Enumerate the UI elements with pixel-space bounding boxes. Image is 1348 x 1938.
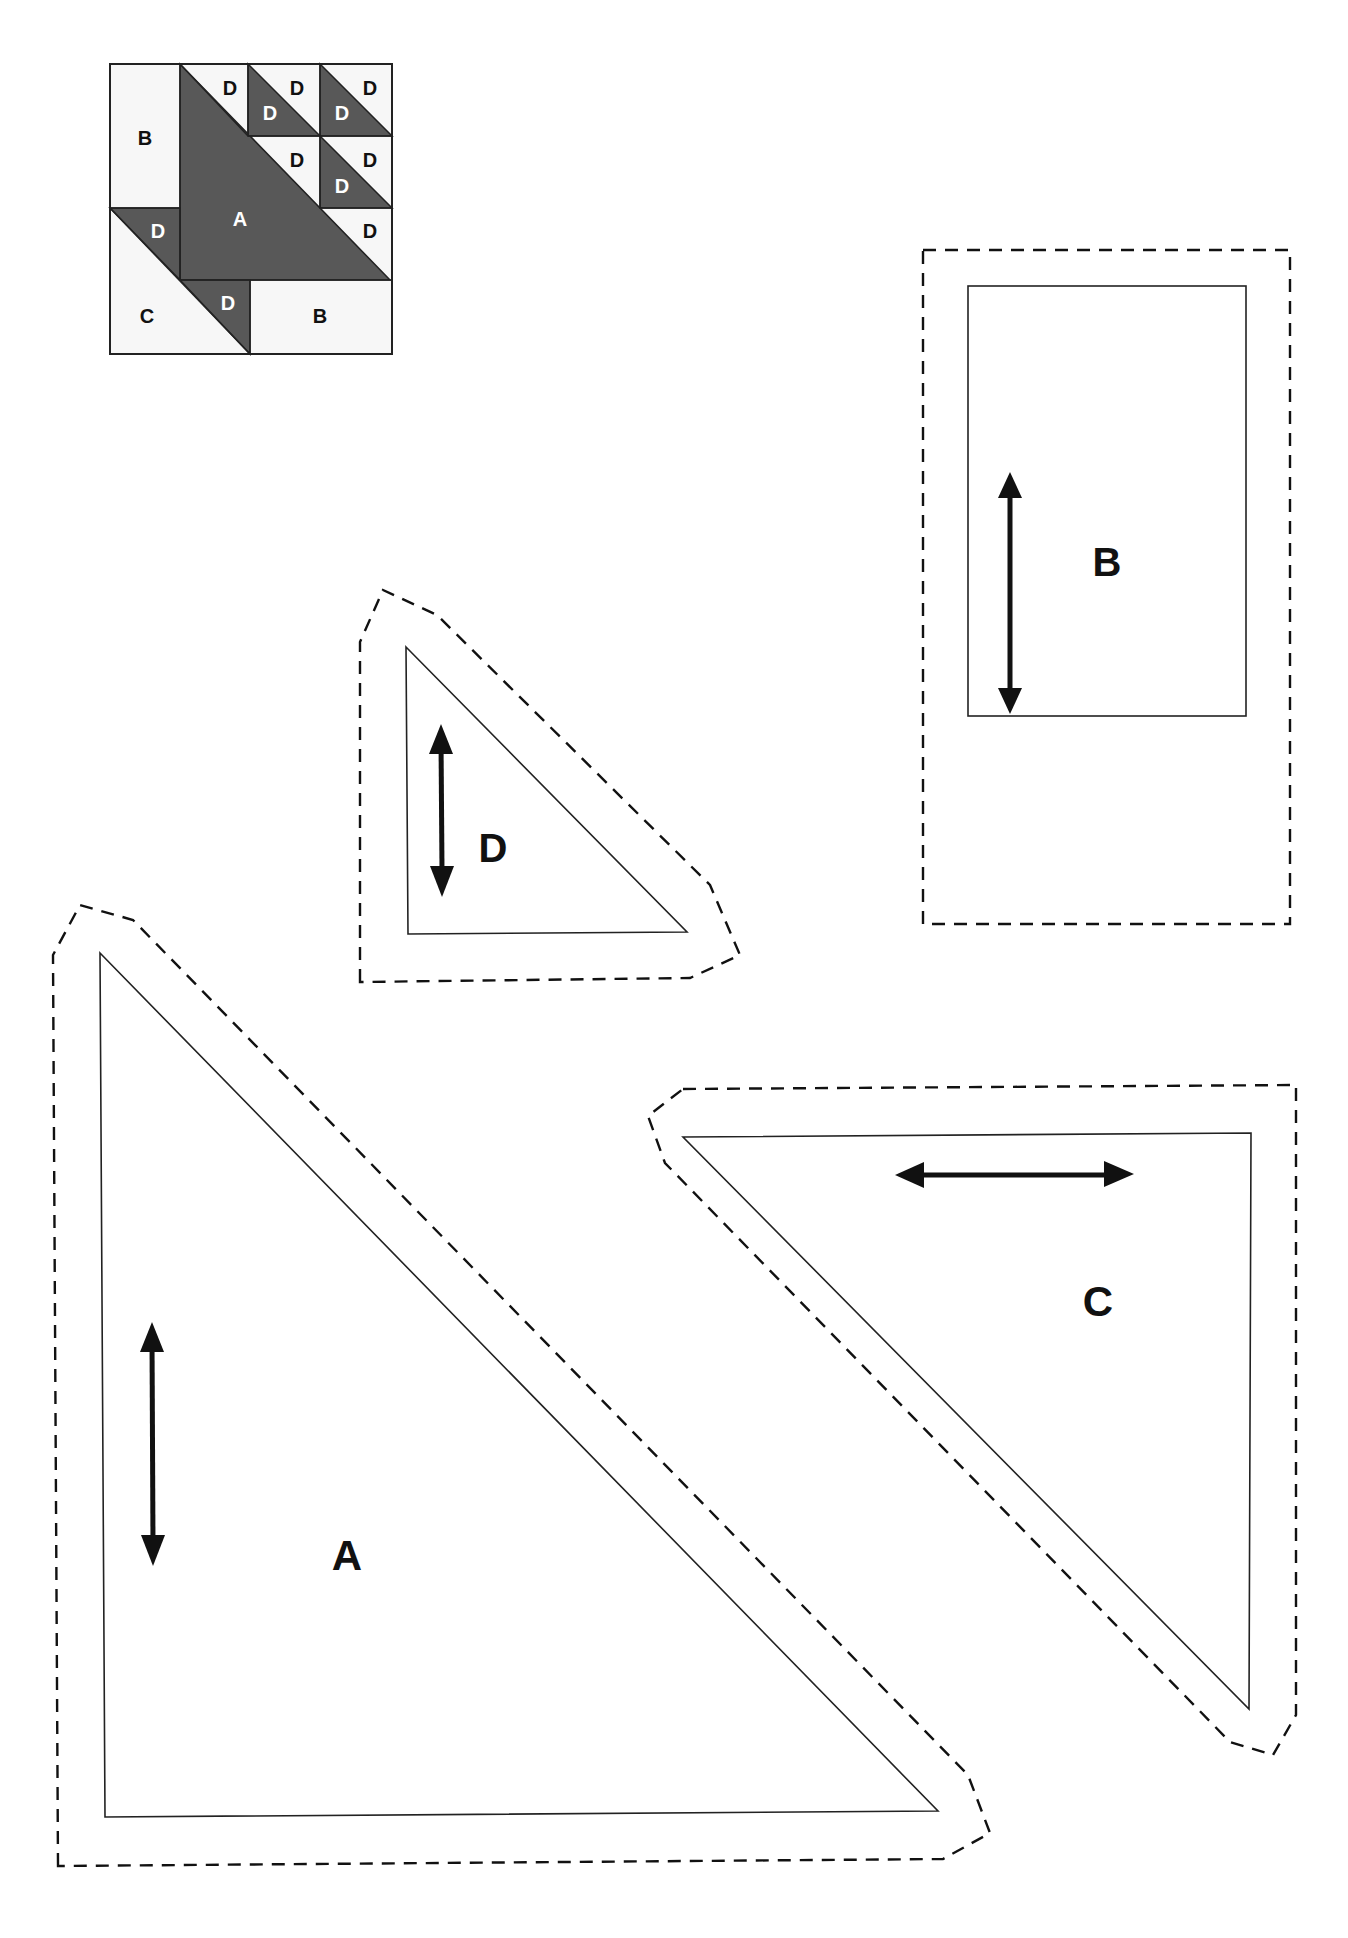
template-label-a: A	[332, 1532, 362, 1579]
block-label-c: C	[140, 305, 154, 327]
block-diagram: B A C B D D D D D D D D D D D	[110, 64, 392, 354]
template-c: C	[648, 1085, 1296, 1755]
block-label-d: D	[263, 102, 277, 124]
template-d: D	[360, 590, 740, 982]
block-label-d: D	[363, 220, 377, 242]
block-label-d: D	[363, 77, 377, 99]
block-label-d: D	[223, 77, 237, 99]
template-label-b: B	[1093, 540, 1122, 584]
cutting-line	[100, 953, 938, 1817]
block-label-d: D	[335, 175, 349, 197]
grain-arrow-icon	[140, 1322, 165, 1566]
grain-arrow-icon	[429, 724, 454, 897]
template-b: B	[923, 250, 1290, 924]
seam-allowance-line	[360, 590, 740, 982]
quilt-pattern-sheet: B A C B D D D D D D D D D D D B D	[0, 0, 1348, 1938]
block-label-d: D	[221, 292, 235, 314]
grain-arrow-icon	[895, 1161, 1134, 1188]
seam-allowance-line	[923, 250, 1290, 924]
block-label-b-left: B	[138, 127, 152, 149]
cutting-line	[683, 1133, 1251, 1709]
cutting-line	[406, 647, 687, 934]
block-label-d: D	[290, 77, 304, 99]
template-label-c: C	[1083, 1278, 1113, 1325]
grain-arrow-icon	[998, 472, 1022, 714]
block-label-d: D	[363, 149, 377, 171]
template-label-d: D	[479, 826, 508, 870]
block-label-b-bottom: B	[313, 305, 327, 327]
template-a: A	[53, 905, 990, 1866]
seam-allowance-line	[648, 1085, 1296, 1755]
block-label-a: A	[233, 208, 247, 230]
block-label-d: D	[335, 102, 349, 124]
block-label-d: D	[290, 149, 304, 171]
block-label-d: D	[151, 220, 165, 242]
